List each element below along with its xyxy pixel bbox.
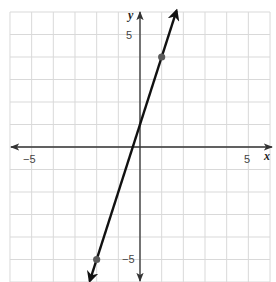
y-tick-label-neg5: −5 xyxy=(122,253,135,265)
x-tick-label-5: 5 xyxy=(244,153,250,165)
x-tick-label-neg5: −5 xyxy=(23,153,36,165)
coordinate-plane: −5 5 5 −5 x y xyxy=(0,0,276,282)
y-axis-label: y xyxy=(126,8,134,22)
data-point xyxy=(93,256,100,263)
graphed-line xyxy=(90,11,177,281)
y-tick-label-5: 5 xyxy=(126,29,132,41)
x-axis-label: x xyxy=(263,149,270,163)
data-point xyxy=(158,53,165,60)
